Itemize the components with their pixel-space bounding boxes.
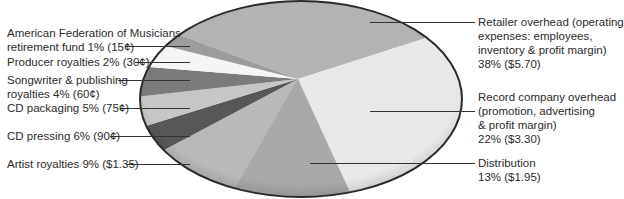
label-line: Retailer overhead (operating [478, 15, 624, 29]
label-line: 22% ($3.30) [478, 132, 616, 146]
label-line: American Federation of Musicians [7, 26, 181, 40]
label-record-company-overhead: Record company overhead (promotion, adve… [478, 90, 616, 146]
label-line: Record company overhead [478, 90, 616, 104]
label-line: expenses: employees, [478, 29, 624, 43]
label-line: (promotion, advertising [478, 104, 616, 118]
label-line: retirement fund 1% (15¢) [7, 40, 181, 54]
label-retailer-overhead: Retailer overhead (operating expenses: e… [478, 15, 624, 71]
label-line: CD pressing 6% (90¢) [7, 129, 120, 143]
label-line: 38% ($5.70) [478, 57, 624, 71]
label-producer-royalties: Producer royalties 2% (30¢) [7, 55, 150, 69]
label-line: Distribution [478, 156, 541, 170]
label-line: & profit margin) [478, 118, 616, 132]
label-line: inventory & profit margin) [478, 43, 624, 57]
label-line: CD packaging 5% (75¢) [7, 101, 129, 115]
label-cd-pressing: CD pressing 6% (90¢) [7, 129, 120, 143]
label-cd-packaging: CD packaging 5% (75¢) [7, 101, 129, 115]
label-line: Producer royalties 2% (30¢) [7, 55, 150, 69]
label-line: Songwriter & publishing [7, 73, 128, 87]
label-line: 13% ($1.95) [478, 170, 541, 184]
label-afm-retirement-fund: American Federation of Musicians retirem… [7, 26, 181, 54]
label-artist-royalties: Artist royalties 9% ($1.35) [7, 157, 139, 171]
label-distribution: Distribution 13% ($1.95) [478, 156, 541, 184]
label-songwriter-royalties: Songwriter & publishing royalties 4% (60… [7, 73, 128, 101]
label-line: Artist royalties 9% ($1.35) [7, 157, 139, 171]
label-line: royalties 4% (60¢) [7, 87, 128, 101]
